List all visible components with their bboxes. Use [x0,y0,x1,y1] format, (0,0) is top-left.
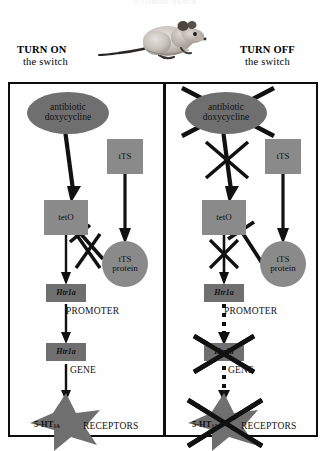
right-star-layer [166,82,321,437]
heading-turn-on-line2: the switch [17,56,113,68]
panel-turn-on: antibiotic doxycycline tTS tetO tTS prot… [8,82,163,437]
heading-turn-off-line1: TURN OFF [240,44,330,56]
left-node-receptor-star-label: 5-HT1A [34,419,60,429]
heading-turn-off-line2: the switch [240,56,330,68]
right-node-receptor-star-label: 5-HT1A [192,419,218,429]
right-label-receptors: RECEPTORS [241,421,296,431]
figure-root: A Genetic Switch [0,0,330,451]
figure-title: A Genetic Switch [0,0,330,4]
heading-turn-on: TURN ON the switch [17,44,113,68]
right-receptor-subscript: 1A [211,423,217,429]
panel-turn-off: antibiotic doxycycline tTS tetO tTS prot… [166,82,321,437]
right-receptor-name: 5-HT [192,419,211,429]
left-receptor-subscript: 1A [53,423,59,429]
left-label-receptors: RECEPTORS [83,421,138,431]
heading-turn-on-line1: TURN ON [17,44,113,56]
heading-turn-off: TURN OFF the switch [240,44,330,68]
left-receptor-name: 5-HT [34,419,53,429]
left-star-layer [8,82,163,437]
